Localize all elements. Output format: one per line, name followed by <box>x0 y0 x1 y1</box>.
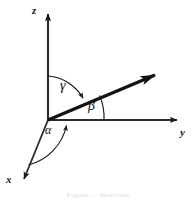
gamma-angle-label: γ <box>60 79 66 93</box>
alpha-angle-label: α <box>45 124 51 136</box>
z-axis-label: z <box>32 5 36 16</box>
axes-diagram <box>0 0 196 202</box>
x-axis-label: x <box>6 174 12 185</box>
y-axis-label: y <box>180 127 185 138</box>
vector-direction-angles-figure: z y x γ β α Figure — direction <box>0 0 196 202</box>
beta-angle-label: β <box>88 99 95 113</box>
figure-caption: Figure — direction <box>0 192 196 202</box>
